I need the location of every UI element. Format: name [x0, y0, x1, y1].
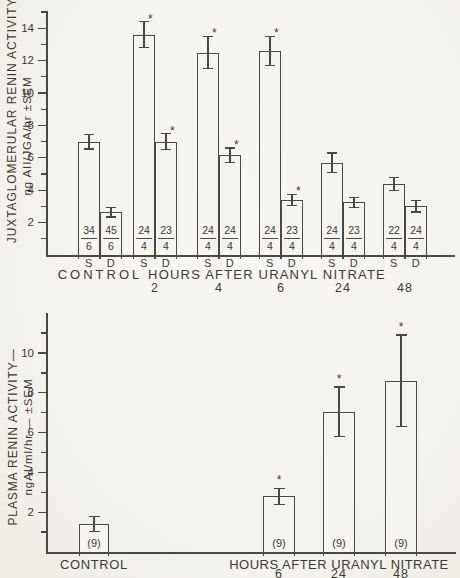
error-bar-line — [207, 36, 208, 68]
baseline-tick — [259, 255, 260, 259]
baseline-tick — [133, 255, 134, 259]
error-bar-cap-bottom — [106, 216, 116, 217]
n-numerator: 23 — [158, 225, 174, 239]
y-tick — [41, 206, 46, 207]
baseline-tick — [78, 255, 79, 259]
significance-asterisk: * — [274, 28, 279, 38]
baseline-tick — [385, 552, 386, 556]
error-bar-cap-bottom — [411, 211, 421, 212]
n-count-label: (9) — [394, 537, 407, 549]
y-tick — [38, 190, 46, 191]
group-hour-label: 24 — [335, 281, 351, 295]
n-numerator: 24 — [222, 225, 238, 239]
significance-asterisk: * — [399, 322, 404, 332]
n-denominator: 4 — [346, 239, 362, 252]
n-numerator: 24 — [324, 225, 340, 239]
n-denominator: 4 — [136, 239, 152, 252]
sample-size-fraction: 234 — [346, 225, 362, 251]
n-denominator: 4 — [158, 239, 174, 252]
group-hour-label: 4 — [215, 281, 223, 295]
n-numerator: 34 — [81, 225, 97, 239]
error-bar-cap-top — [89, 516, 100, 517]
n-denominator: 4 — [262, 239, 278, 252]
baseline-tick — [79, 552, 80, 556]
y-tick — [38, 222, 46, 223]
error-bar-cap-top — [84, 134, 94, 135]
error-bar-cap-bottom — [84, 148, 94, 149]
baseline-tick — [121, 255, 122, 259]
baseline-tick — [383, 255, 384, 259]
sample-size-fraction: 456 — [103, 225, 119, 251]
error-bar-line — [165, 134, 166, 150]
n-count-label: (9) — [272, 537, 285, 549]
y-tick — [41, 141, 46, 142]
error-bar-cap-bottom — [389, 190, 399, 191]
sample-size-fraction: 244 — [262, 225, 278, 251]
bar-series-label: S — [390, 257, 398, 269]
y-tick — [41, 332, 46, 333]
significance-asterisk: * — [234, 140, 239, 150]
baseline-tick — [240, 255, 241, 259]
error-bar-cap-bottom — [265, 65, 275, 66]
n-numerator: 24 — [136, 225, 152, 239]
error-bar-line — [331, 153, 332, 172]
group-label-control: CONTROL — [60, 557, 128, 572]
significance-asterisk: * — [212, 28, 217, 38]
error-bar-cap-bottom — [287, 205, 297, 206]
error-bar-line — [88, 134, 89, 149]
y-axis-units-label: ng AII/JGA/hr ±SEM — [21, 76, 33, 195]
error-bar-line — [269, 36, 270, 65]
n-numerator: 24 — [262, 225, 278, 239]
sample-size-fraction: 244 — [136, 225, 152, 251]
error-bar-line — [415, 201, 416, 212]
y-tick — [38, 60, 46, 61]
y-tick — [41, 452, 46, 453]
y-tick — [41, 238, 46, 239]
group-hour-label: 2 — [151, 281, 159, 295]
n-denominator: 4 — [200, 239, 216, 252]
error-bar-cap-bottom — [327, 172, 337, 173]
y-axis — [46, 313, 48, 552]
y-tick — [41, 492, 46, 493]
y-tick — [41, 11, 46, 12]
baseline-tick — [321, 255, 322, 259]
baseline-tick — [176, 255, 177, 259]
group-hour-label: 24 — [331, 567, 347, 578]
baseline-tick — [219, 255, 220, 259]
error-bar-line — [229, 148, 230, 163]
sample-size-fraction: 244 — [324, 225, 340, 251]
n-numerator: 24 — [408, 225, 424, 239]
n-denominator: 4 — [324, 239, 340, 252]
bar-series-label: D — [412, 257, 420, 269]
y-tick — [38, 432, 46, 433]
baseline-tick — [263, 552, 264, 556]
n-numerator: 24 — [200, 225, 216, 239]
error-bar-cap-bottom — [203, 68, 213, 69]
sample-size-fraction: 234 — [284, 225, 300, 251]
significance-asterisk: * — [170, 126, 175, 136]
baseline-tick — [281, 255, 282, 259]
significance-asterisk: * — [148, 14, 153, 24]
y-tick — [38, 92, 46, 93]
y-tick — [41, 109, 46, 110]
error-bar-line — [393, 177, 394, 190]
group-hour-label: 6 — [277, 281, 285, 295]
y-tick — [38, 28, 46, 29]
n-numerator: 23 — [346, 225, 362, 239]
n-denominator: 4 — [284, 239, 300, 252]
baseline-tick — [426, 255, 427, 259]
group-hour-label: 48 — [397, 281, 413, 295]
y-axis-label: PLASMA RENIN ACTIVITY— — [6, 348, 20, 525]
error-bar-cap-top — [411, 200, 421, 201]
error-bar-cap-bottom — [139, 47, 149, 48]
baseline-tick — [155, 255, 156, 259]
n-denominator: 6 — [103, 239, 119, 252]
significance-asterisk: * — [277, 475, 282, 485]
n-denominator: 4 — [386, 239, 402, 252]
error-bar-cap-bottom — [89, 531, 100, 532]
sample-size-fraction: 244 — [222, 225, 238, 251]
error-bar-cap-top — [274, 488, 285, 489]
error-bar-cap-top — [389, 177, 399, 178]
error-bar-cap-top — [334, 386, 345, 387]
y-axis-units-label: ngAI/ml/hr — ±SEM — [22, 379, 34, 496]
